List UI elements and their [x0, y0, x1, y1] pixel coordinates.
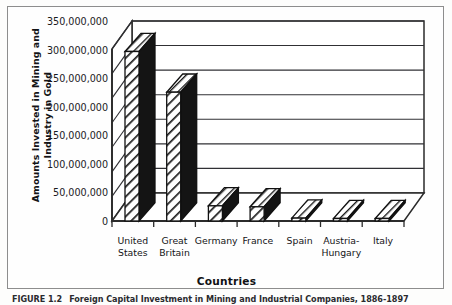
x-tick-label-italy: Italy	[373, 235, 393, 247]
y-tick-label: 150,000,000	[47, 130, 108, 141]
x-tick-label-france: France	[242, 235, 273, 247]
figure-number: FIGURE 1.2	[12, 294, 62, 304]
figure-caption-text: Foreign Capital Investment in Mining and…	[69, 294, 408, 304]
x-tick-label-germany: Germany	[195, 235, 238, 247]
figure-caption: FIGURE 1.2Foreign Capital Investment in …	[12, 294, 448, 304]
chart-plot-area	[112, 21, 424, 225]
x-axis-tick-labels: United States Great Britain Germany Fran…	[112, 235, 424, 279]
bar-great-britain[interactable]	[167, 74, 197, 221]
y-tick-label: 250,000,000	[47, 73, 108, 84]
y-tick-label: 0	[102, 215, 108, 226]
x-tick-label-austria-hungary: Austria- Hungary	[321, 235, 361, 258]
y-tick-label: 300,000,000	[47, 44, 108, 55]
x-axis-title: Countries	[8, 275, 445, 287]
figure-page: Amounts Invested in Mining and Industry …	[0, 0, 452, 305]
x-tick-label-united-states: United States	[118, 235, 149, 258]
y-axis-tick-labels: 350,000,000 300,000,000 250,000,000 200,…	[8, 21, 108, 225]
y-tick-label: 200,000,000	[47, 101, 108, 112]
y-tick-label: 100,000,000	[47, 158, 108, 169]
bar-united-states[interactable]	[125, 33, 155, 221]
x-tick-label-great-britain: Great Britain	[159, 235, 190, 258]
figure-frame: Amounts Invested in Mining and Industry …	[7, 6, 444, 289]
bar-chart-svg	[112, 21, 424, 227]
y-tick-label: 350,000,000	[47, 16, 108, 27]
x-tick-label-spain: Spain	[287, 235, 313, 247]
y-tick-label: 50,000,000	[53, 187, 108, 198]
